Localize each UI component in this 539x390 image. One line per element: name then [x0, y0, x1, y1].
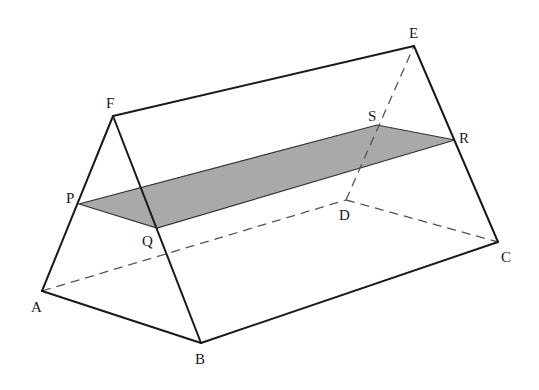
hidden-edge-dc	[346, 200, 498, 242]
vertex-label-r: R	[459, 130, 469, 146]
edge-bc	[201, 242, 498, 343]
vertex-label-c: C	[501, 249, 511, 265]
prism-diagram: A B C D E F P Q R S	[0, 0, 539, 390]
vertex-label-p: P	[66, 190, 74, 206]
edge-fb	[113, 116, 201, 343]
edge-ab	[42, 291, 201, 343]
vertex-label-b: B	[195, 351, 205, 367]
vertex-label-a: A	[31, 299, 42, 315]
vertex-label-s: S	[368, 108, 376, 124]
vertex-label-f: F	[106, 95, 114, 111]
vertex-label-q: Q	[142, 233, 153, 249]
edge-fe	[113, 46, 414, 116]
vertex-label-e: E	[409, 25, 418, 41]
vertex-label-d: D	[339, 207, 350, 223]
hidden-edge-de	[346, 46, 414, 200]
